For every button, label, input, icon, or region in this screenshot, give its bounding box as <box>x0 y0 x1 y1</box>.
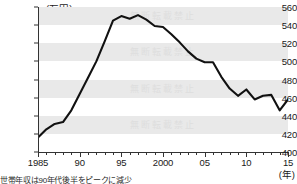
y-tick-mark <box>34 43 38 44</box>
chart-caption: 世帯年収は90年代後半をピークに減少 <box>0 174 132 184</box>
x-tick-mark-minor <box>238 152 239 155</box>
y-tick-label: 500 <box>263 56 297 67</box>
y-tick-label: 460 <box>263 92 297 103</box>
y-tick-label: 420 <box>263 128 297 139</box>
x-tick-mark-minor <box>196 152 197 155</box>
y-tick-label: 480 <box>263 74 297 85</box>
x-tick-mark-minor <box>113 152 114 155</box>
x-tick-mark-minor <box>213 152 214 155</box>
x-tick-label: 1985 <box>28 157 48 168</box>
x-tick-mark-minor <box>46 152 47 155</box>
x-tick-label: 05 <box>200 157 210 168</box>
y-tick-label: 440 <box>263 110 297 121</box>
y-tick-mark <box>34 25 38 26</box>
x-axis-unit-label: (年) <box>279 167 295 181</box>
y-tick-mark <box>34 133 38 134</box>
x-tick-label: 90 <box>75 157 85 168</box>
x-tick-label: 95 <box>116 157 126 168</box>
x-tick-mark-minor <box>271 152 272 155</box>
x-tick-label: 10 <box>241 157 251 168</box>
x-tick-mark-minor <box>221 152 222 155</box>
x-tick-mark-minor <box>255 152 256 155</box>
x-tick-label: 2000 <box>153 157 173 168</box>
x-tick-mark-minor <box>105 152 106 155</box>
x-tick-mark-minor <box>180 152 181 155</box>
y-tick-mark <box>34 97 38 98</box>
x-tick-mark-minor <box>171 152 172 155</box>
x-tick-mark-minor <box>96 152 97 155</box>
x-tick-mark-minor <box>88 152 89 155</box>
plot-area: 無断転載禁止無断転載禁止無断転載禁止無断転載禁止 <box>38 7 288 152</box>
x-tick-mark-minor <box>138 152 139 155</box>
x-tick-mark-minor <box>280 152 281 155</box>
y-tick-mark <box>34 61 38 62</box>
income-line-path <box>38 15 288 137</box>
y-tick-mark <box>34 115 38 116</box>
x-tick-mark-minor <box>188 152 189 155</box>
y-axis-line <box>38 7 39 152</box>
x-tick-mark-minor <box>55 152 56 155</box>
chart-figure: (万円) 無断転載禁止無断転載禁止無断転載禁止無断転載禁止 4004204404… <box>0 0 297 184</box>
x-tick-mark-minor <box>146 152 147 155</box>
y-tick-label: 540 <box>263 20 297 31</box>
line-series <box>38 7 288 152</box>
x-tick-mark-minor <box>71 152 72 155</box>
x-tick-mark-minor <box>130 152 131 155</box>
y-tick-label: 560 <box>263 2 297 13</box>
x-tick-mark-minor <box>155 152 156 155</box>
y-tick-label: 520 <box>263 38 297 49</box>
x-tick-mark-minor <box>63 152 64 155</box>
x-tick-mark-minor <box>263 152 264 155</box>
y-tick-mark <box>34 79 38 80</box>
y-tick-mark <box>34 7 38 8</box>
x-tick-mark-minor <box>230 152 231 155</box>
